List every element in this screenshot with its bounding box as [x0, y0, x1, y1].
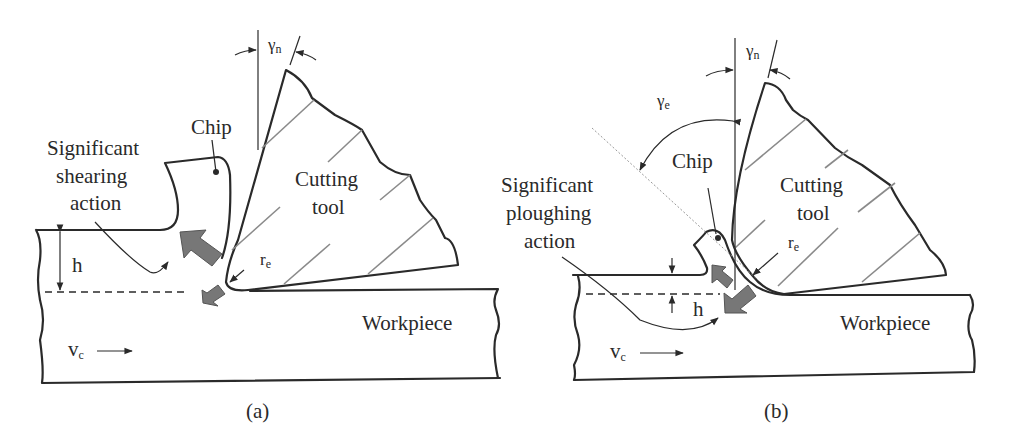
panel-a: γn Chip Significant shearing action Cutt…	[36, 30, 500, 423]
force-arrow-small-b	[712, 265, 733, 288]
action-label-a-2: shearing	[56, 164, 128, 188]
action-label-b-1: Significant	[501, 173, 593, 197]
panel-b: γn γe Chip Significant ploughing action …	[501, 38, 975, 423]
action-label-a-3: action	[70, 191, 122, 215]
tool-label-a-1: Cutting	[295, 167, 359, 191]
action-label-b-3: action	[524, 229, 576, 253]
chip-label-b: Chip	[672, 149, 713, 173]
effective-rake-label-b: γe	[656, 91, 670, 112]
tool-label-b-1: Cutting	[780, 173, 844, 197]
edge-radius-label-b: re	[788, 233, 799, 254]
chip-marker-b	[715, 235, 721, 241]
velocity-label-a: vc	[68, 337, 84, 362]
force-arrow-small-a	[202, 285, 225, 306]
edge-radius-label-a: re	[260, 250, 271, 271]
tool-label-a-2: tool	[312, 195, 345, 219]
force-arrow-large-a	[180, 230, 222, 266]
workpiece-label-a: Workpiece	[362, 311, 452, 335]
action-label-b-2: ploughing	[506, 201, 592, 225]
rake-angle-label-a: γn	[267, 35, 282, 56]
velocity-label-b: vc	[610, 339, 626, 364]
rake-angle-label-b: γn	[745, 41, 760, 62]
caption-a: (a)	[246, 399, 269, 423]
cutting-mechanism-diagram: γn Chip Significant shearing action Cutt…	[0, 0, 1009, 445]
workpiece-label-b: Workpiece	[840, 311, 930, 335]
force-arrow-large-b	[724, 285, 756, 313]
workpiece-outline-b	[573, 230, 975, 380]
depth-label-a: h	[72, 253, 83, 277]
depth-label-b: h	[693, 297, 704, 321]
caption-b: (b)	[764, 399, 789, 423]
tool-label-b-2: tool	[797, 201, 830, 225]
chip-label-a: Chip	[191, 115, 232, 139]
action-label-a-1: Significant	[47, 136, 139, 160]
